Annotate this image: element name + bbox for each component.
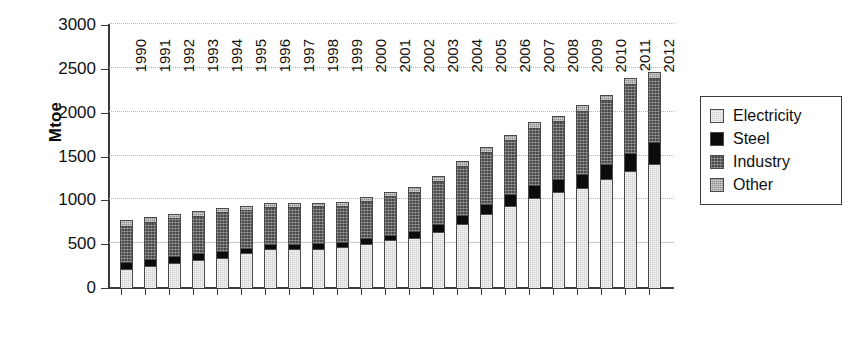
- bar-segment-other: [408, 187, 421, 191]
- bar-segment-electricity: [360, 244, 373, 288]
- x-tick-label: 1997: [300, 39, 317, 72]
- legend-label: Steel: [733, 130, 769, 148]
- bar-segment-other: [360, 197, 373, 201]
- bar-segment-electricity: [624, 171, 637, 288]
- bar-segment-industry: [576, 111, 589, 174]
- bar-2011: [624, 78, 637, 288]
- bar-segment-other: [456, 161, 469, 166]
- legend-item-industry: Industry: [710, 150, 833, 173]
- bar-segment-electricity: [288, 249, 301, 288]
- bar-segment-electricity: [576, 188, 589, 288]
- x-tick-label: 2007: [540, 39, 557, 72]
- y-tick-label: 2000: [58, 103, 96, 123]
- bar-1991: [144, 217, 157, 288]
- bar-segment-other: [576, 105, 589, 111]
- bar-segment-steel: [576, 174, 589, 188]
- x-tick-mark: [169, 288, 170, 295]
- bar-segment-electricity: [384, 240, 397, 288]
- bar-2001: [384, 192, 397, 288]
- bar-segment-other: [312, 203, 325, 207]
- bar-2003: [432, 176, 445, 288]
- bar-segment-electricity: [480, 214, 493, 288]
- bar-segment-steel: [552, 179, 565, 192]
- x-tick-mark: [577, 288, 578, 295]
- x-tick-label: 2005: [492, 39, 509, 72]
- x-tick-label: 1996: [276, 39, 293, 72]
- bar-segment-other: [336, 202, 349, 206]
- bar-segment-steel: [216, 251, 229, 258]
- bar-segment-industry: [480, 152, 493, 204]
- chart-legend: ElectricitySteelIndustryOther: [700, 96, 842, 205]
- bar-segment-industry: [528, 128, 541, 185]
- x-tick-label: 1993: [204, 39, 221, 72]
- bar-2005: [480, 147, 493, 288]
- bar-segment-steel: [648, 142, 661, 164]
- x-tick-mark: [529, 288, 530, 295]
- gridline: [109, 111, 674, 113]
- bar-2000: [360, 197, 373, 288]
- x-tick-label: 2001: [396, 39, 413, 72]
- bar-segment-other: [264, 203, 277, 207]
- gridline: [109, 23, 674, 25]
- gridline: [109, 155, 674, 157]
- bar-2008: [552, 116, 565, 288]
- bar-segment-industry: [312, 206, 325, 243]
- bar-segment-other: [528, 122, 541, 128]
- legend-item-other: Other: [710, 173, 833, 196]
- bar-2004: [456, 161, 469, 288]
- bar-segment-industry: [456, 166, 469, 215]
- bar-segment-electricity: [408, 238, 421, 288]
- x-tick-mark: [193, 288, 194, 295]
- bar-2007: [528, 122, 541, 288]
- y-tick-label: 0: [87, 278, 96, 298]
- bar-segment-other: [600, 95, 613, 101]
- x-tick-mark: [553, 288, 554, 295]
- bar-segment-steel: [600, 164, 613, 179]
- bar-segment-other: [624, 78, 637, 84]
- y-tick-label: 2500: [58, 59, 96, 79]
- bar-segment-industry: [648, 78, 661, 142]
- plot-area: 050010001500200025003000 199019911992199…: [108, 25, 673, 288]
- x-tick-label: 2004: [468, 39, 485, 72]
- x-tick-mark: [505, 288, 506, 295]
- bar-segment-steel: [312, 243, 325, 248]
- y-tick-mark: [101, 25, 108, 26]
- x-tick-mark: [649, 288, 650, 295]
- bar-segment-industry: [240, 210, 253, 248]
- x-tick-label: 1991: [156, 39, 173, 72]
- bar-segment-steel: [408, 231, 421, 237]
- x-tick-label: 1994: [228, 39, 245, 72]
- x-tick-label: 1998: [324, 39, 341, 72]
- bar-1997: [288, 203, 301, 288]
- bar-segment-other: [552, 116, 565, 122]
- bar-segment-other: [288, 203, 301, 207]
- bar-segment-steel: [480, 204, 493, 214]
- y-tick-mark: [101, 157, 108, 158]
- y-tick-label: 1000: [58, 190, 96, 210]
- bar-segment-steel: [384, 235, 397, 240]
- x-tick-mark: [313, 288, 314, 295]
- x-tick-mark: [145, 288, 146, 295]
- bar-segment-steel: [144, 259, 157, 266]
- legend-item-electricity: Electricity: [710, 104, 833, 127]
- bar-1994: [216, 208, 229, 288]
- x-tick-label: 2011: [636, 39, 653, 71]
- y-tick-mark: [101, 69, 108, 70]
- x-tick-mark: [265, 288, 266, 295]
- x-tick-mark: [241, 288, 242, 295]
- bar-segment-electricity: [144, 266, 157, 288]
- x-tick-mark: [337, 288, 338, 295]
- bar-segment-electricity: [648, 164, 661, 288]
- bar-segment-electricity: [216, 258, 229, 288]
- legend-swatch-industry: [710, 155, 724, 169]
- x-tick-label: 2000: [372, 39, 389, 72]
- bar-2002: [408, 187, 421, 288]
- bar-segment-other: [480, 147, 493, 152]
- bar-segment-industry: [408, 192, 421, 232]
- bar-2006: [504, 135, 517, 288]
- bar-segment-steel: [240, 248, 253, 254]
- x-tick-mark: [361, 288, 362, 295]
- bar-segment-industry: [192, 216, 205, 254]
- y-tick-mark: [101, 244, 108, 245]
- bar-segment-industry: [600, 100, 613, 164]
